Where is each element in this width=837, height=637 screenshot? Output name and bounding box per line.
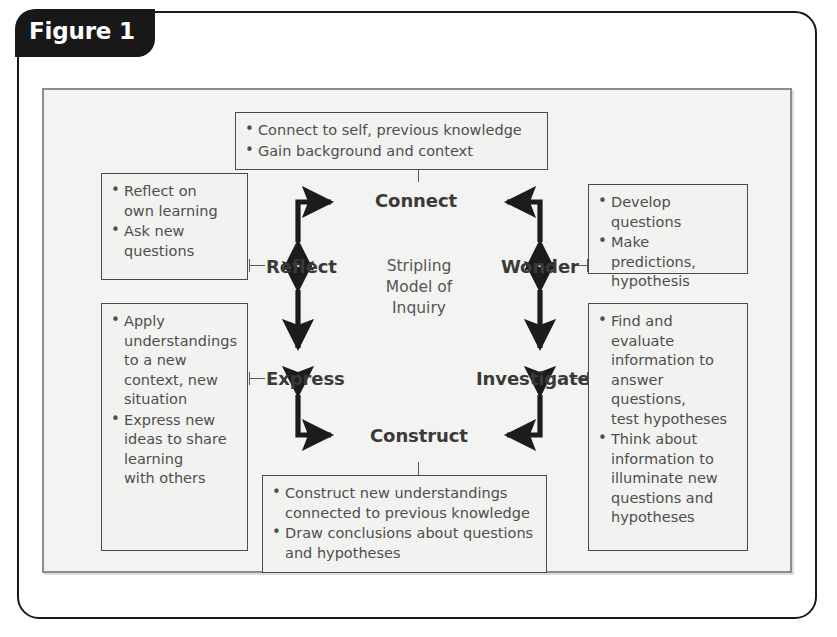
box-investigate: Find and evaluate information to answer … bbox=[588, 303, 748, 551]
diagram-panel: Connect Reflect Wonder Express Investiga… bbox=[42, 88, 792, 573]
box-wonder: Develop questions Make predictions, hypo… bbox=[588, 184, 748, 274]
connector-construct-vertical bbox=[418, 462, 419, 475]
list-item: Ask new questions bbox=[111, 222, 238, 261]
connector-express-tick bbox=[249, 372, 250, 385]
arrow-reflect-connect bbox=[298, 202, 331, 242]
list-item: Draw conclusions about questions and hyp… bbox=[272, 524, 537, 563]
node-label-express: Express bbox=[266, 368, 345, 389]
list-item: Find and evaluate information to answer … bbox=[598, 312, 738, 429]
connector-reflect-tick bbox=[249, 259, 250, 272]
arrow-wonder-connect bbox=[507, 202, 540, 242]
box-reflect: Reflect on own learning Ask new question… bbox=[101, 173, 248, 280]
box-construct: Construct new understandings connected t… bbox=[262, 475, 547, 573]
list-item: Express new ideas to share learning with… bbox=[111, 411, 238, 489]
arrow-investigate-construct bbox=[507, 395, 540, 435]
node-label-construct: Construct bbox=[370, 425, 468, 446]
figure-tab-label: Figure 1 bbox=[29, 18, 135, 44]
box-connect: Connect to self, previous knowledge Gain… bbox=[235, 112, 548, 170]
list-item: Develop questions bbox=[598, 193, 738, 232]
connector-express-horizontal bbox=[249, 378, 265, 379]
box-express: Apply understandings to a new context, n… bbox=[101, 303, 248, 551]
figure-page: Figure 1 bbox=[0, 0, 837, 637]
list-item: Gain background and context bbox=[245, 142, 538, 162]
arrow-express-construct bbox=[298, 395, 331, 435]
node-label-investigate: Investigate bbox=[476, 368, 590, 389]
list-item: Apply understandings to a new context, n… bbox=[111, 312, 238, 410]
list-item: Think about information to illuminate ne… bbox=[598, 430, 738, 528]
list-item: Reflect on own learning bbox=[111, 182, 238, 221]
connector-connect-vertical bbox=[418, 169, 419, 182]
list-item: Construct new understandings connected t… bbox=[272, 484, 537, 523]
list-item: Make predictions, hypothesis bbox=[598, 233, 738, 292]
list-item: Connect to self, previous knowledge bbox=[245, 121, 538, 141]
node-label-connect: Connect bbox=[375, 190, 457, 211]
figure-tab: Figure 1 bbox=[15, 9, 155, 57]
connector-reflect-horizontal bbox=[249, 265, 265, 266]
node-label-wonder: Wonder bbox=[501, 256, 579, 277]
model-center-label: Stripling Model of Inquiry bbox=[359, 256, 479, 319]
node-label-reflect: Reflect bbox=[266, 256, 337, 277]
